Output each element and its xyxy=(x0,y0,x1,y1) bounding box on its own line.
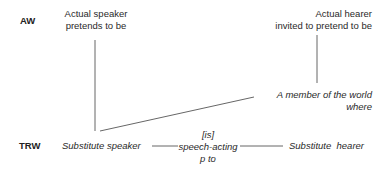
substitute-speaker-label: Substitute speaker xyxy=(62,140,141,152)
world-member-line-2: where xyxy=(250,101,372,113)
substitute-hearer-label: Substitute hearer xyxy=(289,140,364,152)
world-member-line-1: A member of the world xyxy=(250,89,372,101)
speech-acting-relation: [is] speech-acting p to xyxy=(170,129,246,165)
trw-row-label: TRW xyxy=(19,140,40,152)
aw-row-label: AW xyxy=(20,15,35,27)
actual-speaker-line-2: pretends to be xyxy=(56,20,136,32)
speaker-member-diagonal-line xyxy=(100,97,254,131)
relation-line-2: speech-acting xyxy=(170,141,246,153)
relation-line-3: p to xyxy=(170,153,246,165)
relation-line-1: [is] xyxy=(170,129,246,141)
actual-speaker-line-1: Actual speaker xyxy=(56,8,136,20)
actual-hearer-line-2: invited to pretend to be xyxy=(250,20,372,32)
actual-hearer-label: Actual hearer invited to pretend to be xyxy=(250,8,372,32)
world-member-label: A member of the world where xyxy=(250,89,372,113)
actual-hearer-line-1: Actual hearer xyxy=(250,8,372,20)
actual-speaker-label: Actual speaker pretends to be xyxy=(56,8,136,32)
